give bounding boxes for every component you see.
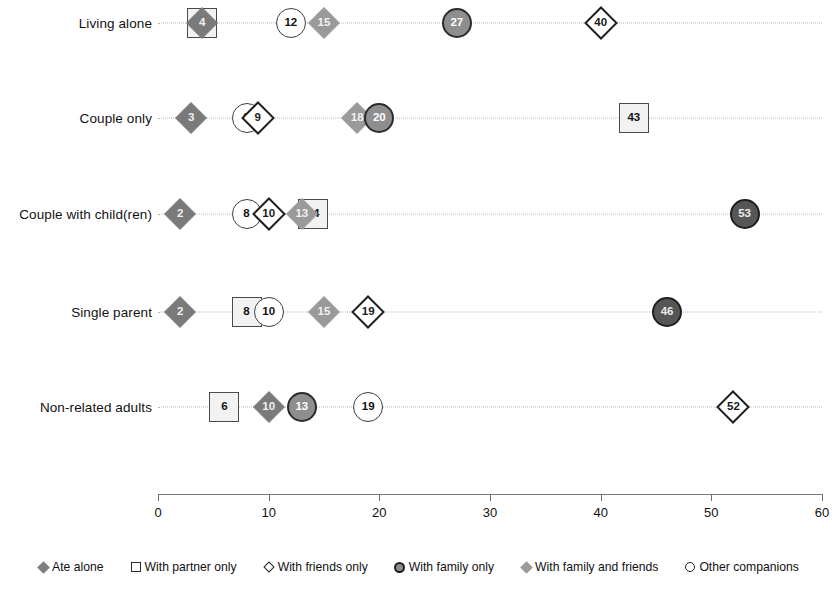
legend-item-5[interactable]: Other companions xyxy=(684,560,799,574)
data-point-marker: 15 xyxy=(307,295,341,329)
x-axis-tick-40 xyxy=(601,494,602,501)
x-axis-tick-0 xyxy=(158,494,159,501)
legend-item-label: With friends only xyxy=(278,560,368,574)
x-axis-tick-label-0: 0 xyxy=(154,505,161,520)
x-axis-tick-label-30: 30 xyxy=(483,505,497,520)
legend-item-label: Other companions xyxy=(699,560,799,574)
data-point-marker: 27 xyxy=(442,8,472,38)
legend-item-label: With partner only xyxy=(145,560,237,574)
data-point-marker: 20 xyxy=(364,103,394,133)
data-point-marker: 13 xyxy=(285,197,319,231)
legend-spacer xyxy=(658,567,684,568)
data-point-marker: 9 xyxy=(241,101,275,135)
data-point-marker: 10 xyxy=(252,390,286,424)
data-point-marker: 52 xyxy=(716,390,750,424)
legend-spacer xyxy=(237,567,263,568)
legend-item-2[interactable]: With friends only xyxy=(263,560,368,574)
category-label-text: Couple with child(ren) xyxy=(19,207,152,222)
x-axis-tick-label-60: 60 xyxy=(815,505,829,520)
scatter-chart: Living aloneCouple onlyCouple with child… xyxy=(0,0,836,589)
legend-item-label: With family and friends xyxy=(535,560,658,574)
data-point-marker: 10 xyxy=(252,197,286,231)
data-point-marker: 19 xyxy=(353,392,383,422)
category-label-text: Non-related adults xyxy=(40,400,152,415)
x-axis-tick-label-50: 50 xyxy=(704,505,718,520)
legend-spacer xyxy=(104,567,130,568)
data-point-marker: 3 xyxy=(174,101,208,135)
category-label-text: Single parent xyxy=(71,305,152,320)
plot-area: 4121527403891820432810141353281015194661… xyxy=(158,0,822,510)
data-point-marker: 40 xyxy=(584,6,618,40)
x-axis-tick-60 xyxy=(822,494,823,501)
square-open-icon xyxy=(130,561,142,573)
data-point-marker: 12 xyxy=(276,8,306,38)
row-gridline-0 xyxy=(158,23,822,24)
data-point-marker: 53 xyxy=(730,199,760,229)
legend-item-4[interactable]: With family and friends xyxy=(520,560,658,574)
legend-item-1[interactable]: With partner only xyxy=(130,560,237,574)
data-point-marker: 2 xyxy=(163,197,197,231)
legend-item-3[interactable]: With family only xyxy=(394,560,494,574)
data-point-marker: 43 xyxy=(619,103,649,133)
data-point-marker: 2 xyxy=(163,295,197,329)
legend-item-0[interactable]: Ate alone xyxy=(37,560,104,574)
category-label-text: Living alone xyxy=(79,16,152,31)
data-point-marker: 46 xyxy=(652,297,682,327)
x-axis-tick-30 xyxy=(490,494,491,501)
circle-family-icon xyxy=(394,561,406,573)
diamond-dark-icon xyxy=(37,561,49,573)
legend-item-label: With family only xyxy=(409,560,494,574)
x-axis-tick-20 xyxy=(379,494,380,501)
data-point-marker: 10 xyxy=(254,297,284,327)
x-axis: 0102030405060 xyxy=(158,494,822,495)
chart-legend: Ate aloneWith partner onlyWith friends o… xyxy=(0,560,836,574)
data-point-marker: 6 xyxy=(209,392,239,422)
x-axis-tick-label-20: 20 xyxy=(372,505,386,520)
x-axis-tick-50 xyxy=(711,494,712,501)
data-point-marker: 4 xyxy=(185,6,219,40)
legend-spacer xyxy=(368,567,394,568)
data-point-marker: 15 xyxy=(307,6,341,40)
x-axis-tick-label-10: 10 xyxy=(261,505,275,520)
x-axis-tick-10 xyxy=(269,494,270,501)
legend-item-label: Ate alone xyxy=(52,560,104,574)
category-label-text: Couple only xyxy=(80,111,152,126)
x-axis-tick-label-40: 40 xyxy=(593,505,607,520)
circle-open-icon xyxy=(684,561,696,573)
diamond-mid-icon xyxy=(520,561,532,573)
diamond-open-icon xyxy=(263,561,275,573)
data-point-marker: 13 xyxy=(287,392,317,422)
legend-spacer xyxy=(494,567,520,568)
data-point-marker: 19 xyxy=(351,295,385,329)
